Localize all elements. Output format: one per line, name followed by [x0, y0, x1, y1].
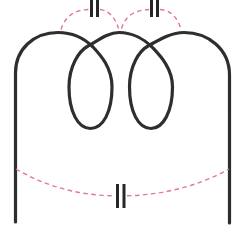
capacitance-dashed-arc	[127, 169, 229, 196]
capacitive-link-top-right	[122, 0, 182, 29]
diagram-canvas	[0, 0, 242, 231]
capacitance-dashed-arc	[122, 10, 150, 29]
capacitive-link-top-left	[61, 0, 119, 30]
coil-capacitance-diagram	[0, 0, 242, 231]
capacitive-link-bottom	[16, 169, 229, 208]
capacitance-dashed-arc	[16, 169, 115, 196]
capacitance-dashed-arc	[160, 10, 181, 30]
capacitance-dashed-arc	[100, 10, 119, 29]
capacitance-dashed-arc	[61, 10, 90, 30]
